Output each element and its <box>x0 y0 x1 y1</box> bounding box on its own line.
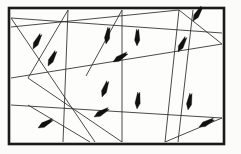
diagram-canvas <box>0 0 241 154</box>
directed-line-diagram <box>0 0 241 154</box>
